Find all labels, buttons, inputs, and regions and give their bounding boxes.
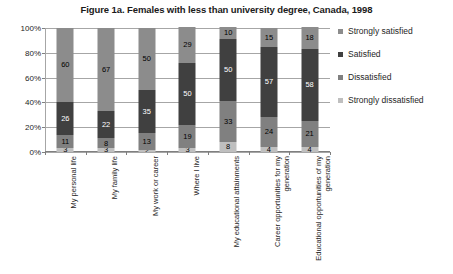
bar-segment[interactable]: 8 <box>220 142 237 152</box>
bar-stack[interactable]: 2133550 <box>138 28 155 152</box>
bar-segment[interactable]: 8 <box>98 138 115 148</box>
x-axis-labels: My personal lifeMy family lifeMy work or… <box>45 156 330 272</box>
bar-segment-value: 3 <box>63 148 67 152</box>
y-axis-tick-label: 60% <box>25 73 41 82</box>
bar-stack[interactable]: 3195029 <box>179 28 196 152</box>
bar-segment[interactable]: 26 <box>57 102 74 134</box>
bar-segment-value: 58 <box>305 81 313 89</box>
bar-group[interactable]: 2133550 <box>126 28 167 152</box>
bar-segment-value: 3 <box>104 148 108 152</box>
bar-segment-value: 13 <box>143 138 151 146</box>
chart-title: Figure 1a. Females with less than univer… <box>0 4 453 15</box>
legend-item[interactable]: Strongly dissatisfied <box>338 95 450 106</box>
bar-group[interactable]: 3195029 <box>167 28 208 152</box>
legend-swatch-icon <box>338 75 343 80</box>
legend-item[interactable]: Strongly satisfied <box>338 26 450 37</box>
x-axis-tick-mark <box>45 152 46 155</box>
bar-segment[interactable]: 29 <box>179 27 196 63</box>
bar-stack[interactable]: 3112660 <box>57 28 74 152</box>
bar-group[interactable]: 3112660 <box>45 28 86 152</box>
bar-segment[interactable]: 21 <box>301 121 318 147</box>
bar-segment-value: 22 <box>102 121 110 129</box>
bar-segment[interactable]: 50 <box>179 63 196 125</box>
bar-segment[interactable]: 35 <box>138 90 155 133</box>
bar-segment-value: 2 <box>145 150 149 152</box>
x-axis-category-label: Career opportunities for my generation <box>273 156 291 268</box>
x-axis-tick-mark <box>289 152 290 155</box>
legend-swatch-icon <box>338 29 343 34</box>
bar-group[interactable]: 4245715 <box>249 28 290 152</box>
bar-segment[interactable]: 3 <box>57 148 74 152</box>
bar-segment[interactable]: 50 <box>138 28 155 90</box>
x-axis-category-label: My family life <box>110 156 119 268</box>
bar-stack[interactable]: 4245715 <box>260 28 277 152</box>
y-axis-tick-label: 0% <box>29 148 41 157</box>
legend-item-label: Satisfied <box>348 49 381 60</box>
bar-segment-value: 24 <box>265 128 273 136</box>
y-axis-tick-label: 40% <box>25 98 41 107</box>
legend-item-label: Dissatisfied <box>348 72 391 83</box>
x-axis-tick-mark <box>249 152 250 155</box>
bar-segment[interactable]: 33 <box>220 101 237 142</box>
bar-segment[interactable]: 22 <box>98 111 115 138</box>
bar-stack[interactable]: 8335010 <box>220 28 237 152</box>
legend-item[interactable]: Dissatisfied <box>338 72 450 83</box>
y-axis-tick-label: 100% <box>21 24 41 33</box>
bar-segment-value: 15 <box>265 34 273 42</box>
bar-segment[interactable]: 4 <box>260 147 277 152</box>
bar-segment[interactable]: 10 <box>220 27 237 39</box>
x-axis-tick-mark <box>330 152 331 155</box>
bar-segment[interactable]: 4 <box>301 147 318 152</box>
bar-segment-value: 50 <box>183 90 191 98</box>
bar-segment-value: 57 <box>265 78 273 86</box>
bar-segment[interactable]: 57 <box>260 47 277 118</box>
bar-segment[interactable]: 60 <box>57 28 74 102</box>
x-axis-category-label: My work or career <box>151 156 160 268</box>
bar-segment[interactable]: 50 <box>220 39 237 101</box>
bar-segment[interactable]: 3 <box>179 148 196 152</box>
bar-segment-value: 67 <box>102 66 110 74</box>
legend-item-label: Strongly satisfied <box>348 26 413 37</box>
bar-segment-value: 33 <box>224 118 232 126</box>
bar-segment[interactable]: 18 <box>301 27 318 49</box>
bar-segment-value: 11 <box>61 138 69 146</box>
x-axis-category-label: Where I live <box>192 156 201 268</box>
bar-segment[interactable]: 15 <box>260 28 277 47</box>
bar-segment-value: 35 <box>143 108 151 116</box>
bar-segment[interactable]: 13 <box>138 133 155 149</box>
x-axis-category-label: My educational attainments <box>232 156 241 268</box>
gridline <box>45 152 330 153</box>
legend-item[interactable]: Satisfied <box>338 49 450 60</box>
bar-segment-value: 50 <box>143 55 151 63</box>
x-axis-category-label: My personal life <box>69 156 78 268</box>
legend-swatch-icon <box>338 98 343 103</box>
legend-swatch-icon <box>338 52 343 57</box>
bar-segment[interactable]: 3 <box>98 148 115 152</box>
bar-segment-value: 8 <box>104 140 108 148</box>
bar-segment[interactable]: 2 <box>138 150 155 152</box>
chart-legend: Strongly satisfiedSatisfiedDissatisfiedS… <box>338 26 450 118</box>
bar-segment[interactable]: 11 <box>57 135 74 149</box>
bar-segment[interactable]: 67 <box>98 28 115 111</box>
bar-group[interactable]: 4215818 <box>289 28 330 152</box>
bar-segment[interactable]: 24 <box>260 117 277 147</box>
chart-container: Figure 1a. Females with less than univer… <box>0 0 453 274</box>
bar-segment-value: 29 <box>183 41 191 49</box>
bar-segment-value: 3 <box>185 148 189 152</box>
bar-segment-value: 10 <box>224 29 232 37</box>
x-axis-tick-mark <box>86 152 87 155</box>
bar-group[interactable]: 382267 <box>86 28 127 152</box>
bar-segment-value: 21 <box>305 130 313 138</box>
bar-group[interactable]: 8335010 <box>208 28 249 152</box>
y-axis-tick-label: 20% <box>25 123 41 132</box>
bar-segment-value: 50 <box>224 66 232 74</box>
bar-segment[interactable]: 19 <box>179 125 196 149</box>
bar-segment-value: 18 <box>305 34 313 42</box>
bar-segment[interactable]: 58 <box>301 49 318 121</box>
bar-segment-value: 19 <box>183 133 191 141</box>
bar-segment-value: 8 <box>226 143 230 151</box>
bar-segment-value: 60 <box>61 61 69 69</box>
bar-series-group: 3112660382267213355031950298335010424571… <box>45 28 330 152</box>
bar-stack[interactable]: 382267 <box>98 28 115 152</box>
bar-stack[interactable]: 4215818 <box>301 28 318 152</box>
